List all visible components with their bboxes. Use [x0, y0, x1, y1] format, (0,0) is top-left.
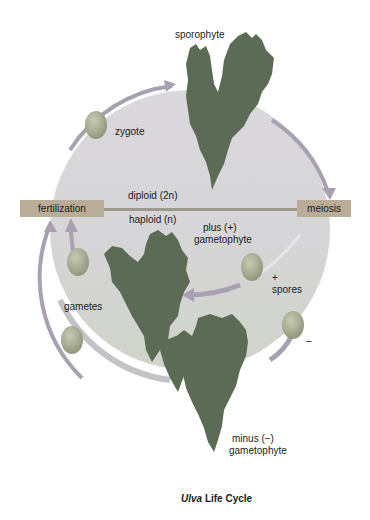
minus-gametophyte-leaf — [174, 314, 248, 452]
plus-spore-cell — [241, 253, 263, 281]
title-rest: Life Cycle — [202, 493, 252, 504]
label-plus-sign: + — [272, 272, 278, 284]
minus-spore-cell — [282, 311, 304, 339]
fertilization-bar: fertilization — [20, 200, 104, 217]
diagram-title: Ulva Life Cycle — [181, 493, 252, 504]
zygote-cell — [85, 111, 107, 139]
label-sporophyte: sporophyte — [175, 29, 224, 41]
label-minus-gametophyte-line2: gametophyte — [229, 445, 287, 457]
gamete-cell-upper — [67, 248, 89, 276]
ploidy-divider — [100, 208, 300, 211]
ulva-life-cycle-diagram: sporophyte zygote diploid (2n) haploid (… — [0, 0, 370, 520]
title-genus: Ulva — [181, 493, 202, 504]
label-diploid: diploid (2n) — [128, 190, 177, 202]
label-minus-gametophyte-line1: minus (−) — [232, 433, 274, 445]
label-zygote: zygote — [115, 126, 144, 138]
label-haploid: haploid (n) — [129, 214, 176, 226]
gamete-cell-lower — [61, 326, 83, 354]
meiosis-bar: meiosis — [297, 200, 351, 217]
cycle-illustration — [0, 0, 370, 520]
label-plus-gametophyte-line2: gametophyte — [194, 234, 252, 246]
label-minus-sign: – — [306, 335, 312, 347]
label-plus-gametophyte-line1: plus (+) — [203, 222, 237, 234]
label-gametes: gametes — [64, 301, 102, 313]
label-spores: spores — [272, 284, 302, 296]
